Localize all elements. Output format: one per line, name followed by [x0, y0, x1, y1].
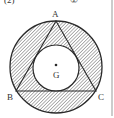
label-g: G — [53, 70, 60, 80]
header-fragment-left: (2) — [4, 0, 15, 5]
header-fragment-right: ② — [70, 0, 78, 5]
label-b: B — [7, 92, 13, 102]
label-c: C — [98, 92, 104, 102]
inner-circle — [33, 45, 79, 91]
geometry-figure: (2) ② A B C G — [0, 0, 114, 118]
centroid-point — [55, 64, 58, 67]
label-a: A — [52, 9, 59, 19]
